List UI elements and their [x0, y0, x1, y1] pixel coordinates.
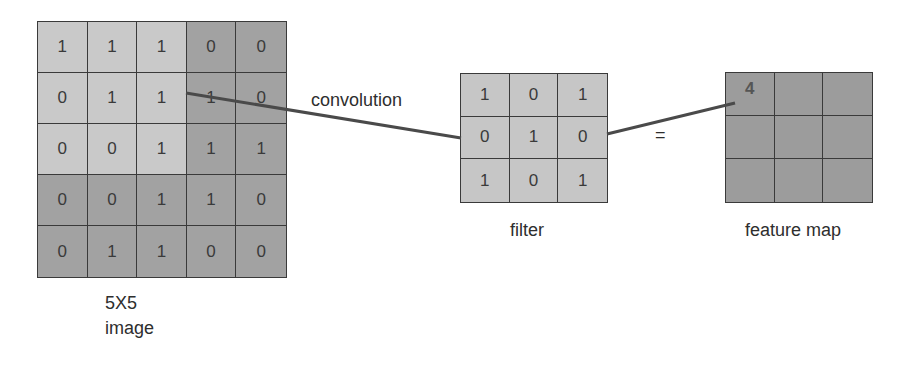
connector-lines — [0, 0, 905, 373]
filter-to-map-line — [607, 103, 735, 134]
image-to-filter-line — [186, 93, 461, 138]
